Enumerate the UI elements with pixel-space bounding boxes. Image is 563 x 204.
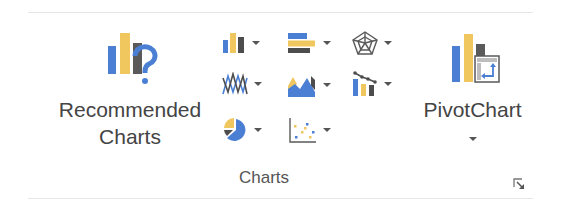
recommended-charts-icon xyxy=(102,30,158,88)
ribbon-top-border xyxy=(28,12,533,13)
scatter-chart-icon xyxy=(289,117,317,143)
pie-chart-dropdown-arrow[interactable] xyxy=(254,128,262,132)
combo-chart-button[interactable] xyxy=(352,71,392,97)
pie-chart-button[interactable] xyxy=(222,117,262,143)
scatter-chart-button[interactable] xyxy=(289,117,331,143)
recommended-charts-label-line1: Recommended xyxy=(59,96,201,123)
combo-chart-icon xyxy=(352,71,378,97)
bar-chart-dropdown-arrow[interactable] xyxy=(323,41,331,45)
pie-chart-icon xyxy=(222,117,248,143)
area-chart-dropdown-arrow[interactable] xyxy=(323,83,331,87)
column-chart-dropdown-arrow[interactable] xyxy=(252,41,260,45)
line-chart-icon xyxy=(222,72,248,96)
recommended-charts-button[interactable]: Recommended Charts xyxy=(50,30,210,150)
radar-chart-button[interactable] xyxy=(352,31,392,55)
bar-chart-button[interactable] xyxy=(287,32,331,54)
line-chart-dropdown-arrow[interactable] xyxy=(254,82,262,86)
column-chart-button[interactable] xyxy=(222,32,260,54)
pivot-chart-icon xyxy=(445,30,501,88)
area-chart-icon xyxy=(287,72,317,98)
column-chart-icon xyxy=(222,32,246,54)
pivot-chart-dropdown-arrow[interactable] xyxy=(469,137,477,141)
group-label: Charts xyxy=(239,168,289,188)
recommended-charts-label-line2: Charts xyxy=(99,123,161,150)
radar-chart-dropdown-arrow[interactable] xyxy=(384,41,392,45)
bar-chart-icon xyxy=(287,32,317,54)
pivot-chart-label: PivotChart xyxy=(423,96,521,123)
radar-chart-icon xyxy=(352,31,378,55)
scatter-chart-dropdown-arrow[interactable] xyxy=(323,128,331,132)
area-chart-button[interactable] xyxy=(287,72,331,98)
line-chart-button[interactable] xyxy=(222,72,262,96)
ribbon-bottom-border xyxy=(28,198,533,199)
combo-chart-dropdown-arrow[interactable] xyxy=(384,82,392,86)
dialog-launcher-icon[interactable] xyxy=(513,178,525,190)
pivot-chart-button[interactable]: PivotChart xyxy=(410,30,535,141)
